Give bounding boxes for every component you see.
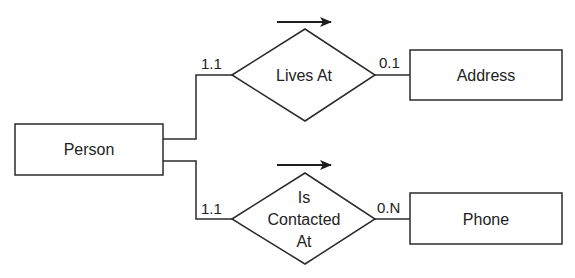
connector-person-lives-at (163, 75, 232, 139)
entity-phone: Phone (410, 193, 562, 244)
relationship-is-contacted-at: Is Contacted At (232, 165, 375, 264)
entity-person-label: Person (64, 141, 115, 158)
relationship-is-contacted-at-label-line-1: Is (298, 189, 310, 206)
entity-address: Address (410, 50, 562, 100)
relationship-lives-at-label: Lives At (276, 67, 333, 84)
relationship-lives-at: Lives At (232, 22, 375, 121)
cardinality-person-is-contacted-at: 1.1 (201, 200, 222, 217)
entity-phone-label: Phone (463, 211, 509, 228)
entity-person: Person (15, 124, 163, 175)
cardinality-person-lives-at: 1.1 (201, 55, 222, 72)
cardinality-lives-at-address: 0.1 (379, 54, 400, 71)
er-diagram: Person 1.1 Lives At 0.1 Address 1.1 Is C… (0, 0, 575, 278)
cardinality-is-contacted-at-phone: 0.N (377, 199, 400, 216)
entity-address-label: Address (457, 67, 516, 84)
relationship-is-contacted-at-label-line-3: At (296, 233, 312, 250)
relationship-is-contacted-at-label-line-2: Contacted (268, 211, 341, 228)
